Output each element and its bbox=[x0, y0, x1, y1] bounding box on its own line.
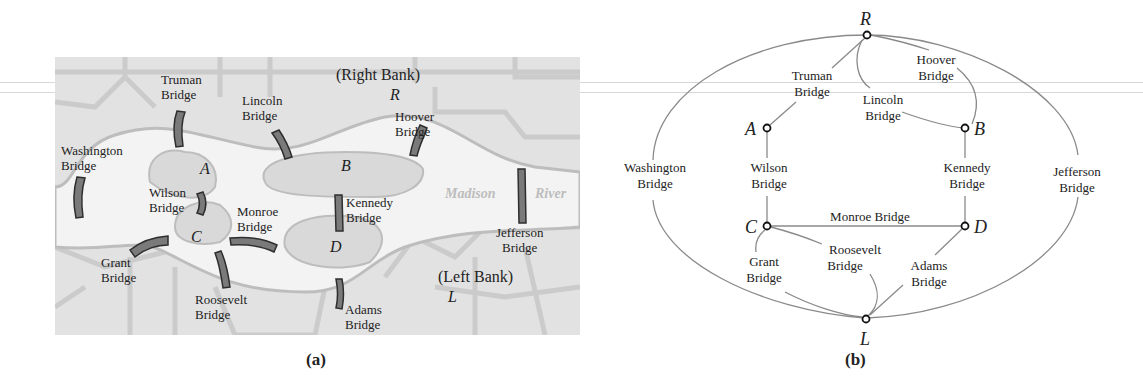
bridge-map-panel: Truman Bridge Lincoln Bridge Hoover Brid… bbox=[55, 57, 580, 335]
vertex-c-label: C bbox=[745, 217, 758, 237]
roosevelt-edge-label-line1: Roosevelt bbox=[829, 242, 881, 257]
wilson-label-line2: Bridge bbox=[149, 200, 185, 215]
vertex-a-label: A bbox=[744, 119, 757, 139]
truman-edge-label-line2: Bridge bbox=[794, 84, 830, 99]
region-b-letter: B bbox=[341, 157, 351, 174]
grant-edge-label-line2: Bridge bbox=[746, 270, 782, 285]
edge-truman-lower bbox=[770, 102, 796, 125]
edge-lincoln-lower bbox=[902, 112, 965, 128]
edge-grant-upper bbox=[756, 230, 765, 252]
roosevelt-edge-label-line2: Bridge bbox=[827, 258, 863, 273]
region-c-letter: C bbox=[191, 228, 202, 245]
vertex-l-label: L bbox=[859, 329, 870, 349]
washington-edge-label-line1: Washington bbox=[624, 160, 686, 175]
edge-adams-upper bbox=[935, 229, 962, 255]
wilson-edge-label-line1: Wilson bbox=[750, 160, 788, 175]
region-a-letter: A bbox=[199, 160, 210, 177]
monroe-label-line1: Monroe bbox=[237, 204, 278, 219]
vertex-d-label: D bbox=[973, 217, 987, 237]
kennedy-label-line2: Bridge bbox=[346, 210, 382, 225]
river-label-madison: Madison bbox=[444, 186, 496, 201]
edge-roosevelt-upper bbox=[771, 227, 822, 244]
panel-b-caption: (b) bbox=[845, 350, 866, 370]
vertex-b-label: B bbox=[974, 119, 985, 139]
vertex-b bbox=[962, 125, 969, 132]
bridge-graph-panel: R A B C D L Truman Bridge Lincoln Bridge… bbox=[600, 0, 1143, 383]
river-label-river: River bbox=[534, 186, 567, 201]
roosevelt-label-line1: Roosevelt bbox=[195, 292, 247, 307]
adams-bridge-shape bbox=[336, 279, 344, 309]
monroe-label-line2: Bridge bbox=[237, 219, 273, 234]
bridge-graph: R A B C D L Truman Bridge Lincoln Bridge… bbox=[600, 0, 1143, 383]
hoover-label-line1: Hoover bbox=[395, 109, 435, 124]
edge-labels: Truman Bridge Lincoln Bridge Hoover Brid… bbox=[624, 52, 1101, 289]
graph-edges bbox=[653, 35, 1078, 318]
lincoln-edge-label-line2: Bridge bbox=[865, 108, 901, 123]
vertex-r-label: R bbox=[859, 9, 871, 29]
region-l-letter: L bbox=[447, 288, 457, 305]
jefferson-edge-label-line1: Jefferson bbox=[1053, 164, 1101, 179]
region-r-letter: R bbox=[389, 86, 400, 103]
truman-edge-label-line1: Truman bbox=[792, 68, 833, 83]
grant-label-line1: Grant bbox=[101, 255, 131, 270]
truman-label-line2: Bridge bbox=[161, 87, 197, 102]
vertex-r bbox=[864, 32, 871, 39]
right-bank-label: (Right Bank) bbox=[336, 66, 420, 84]
lincoln-edge-label-line1: Lincoln bbox=[863, 92, 904, 107]
left-bank-label: (Left Bank) bbox=[438, 268, 513, 286]
jefferson-edge-label-line2: Bridge bbox=[1059, 180, 1095, 195]
panel-a-caption: (a) bbox=[306, 350, 326, 370]
truman-label-line1: Truman bbox=[161, 72, 202, 87]
wilson-label-line1: Wilson bbox=[149, 185, 187, 200]
adams-label-line2: Bridge bbox=[345, 317, 381, 332]
washington-label-line2: Bridge bbox=[61, 158, 97, 173]
edge-lincoln-upper bbox=[857, 40, 870, 88]
vertex-l bbox=[863, 316, 870, 323]
monroe-edge-label: Monroe Bridge bbox=[830, 209, 910, 224]
kennedy-label-line1: Kennedy bbox=[346, 195, 393, 210]
grant-label-line2: Bridge bbox=[101, 270, 137, 285]
lincoln-label-line1: Lincoln bbox=[242, 93, 283, 108]
kennedy-bridge-shape bbox=[335, 195, 343, 231]
jefferson-label-line2: Bridge bbox=[502, 240, 538, 255]
region-d-letter: D bbox=[329, 238, 342, 255]
wilson-edge-label-line2: Bridge bbox=[751, 176, 787, 191]
jefferson-label-line1: Jefferson bbox=[496, 225, 544, 240]
edge-washington bbox=[653, 35, 867, 160]
roosevelt-label-line2: Bridge bbox=[195, 307, 231, 322]
adams-edge-label-line1: Adams bbox=[911, 258, 948, 273]
bridge-map: Truman Bridge Lincoln Bridge Hoover Brid… bbox=[55, 57, 580, 335]
vertex-d bbox=[962, 223, 969, 230]
hoover-edge-label-line1: Hoover bbox=[917, 52, 957, 67]
kennedy-edge-label-line1: Kennedy bbox=[944, 160, 991, 175]
grant-edge-label-line1: Grant bbox=[749, 254, 779, 269]
edge-adams-lower bbox=[870, 285, 903, 315]
vertex-a bbox=[764, 125, 771, 132]
jefferson-bridge-shape bbox=[518, 169, 526, 223]
adams-label-line1: Adams bbox=[345, 302, 382, 317]
washington-edge-label-line2: Bridge bbox=[637, 176, 673, 191]
kennedy-edge-label-line2: Bridge bbox=[949, 176, 985, 191]
hoover-label-line2: Bridge bbox=[395, 124, 431, 139]
hoover-edge-label-line2: Bridge bbox=[918, 68, 954, 83]
edge-truman-upper bbox=[832, 38, 865, 68]
edge-hoover-lower bbox=[957, 68, 976, 124]
vertex-c bbox=[764, 223, 771, 230]
lincoln-label-line2: Bridge bbox=[242, 108, 278, 123]
adams-edge-label-line2: Bridge bbox=[911, 274, 947, 289]
washington-label-line1: Washington bbox=[61, 143, 123, 158]
